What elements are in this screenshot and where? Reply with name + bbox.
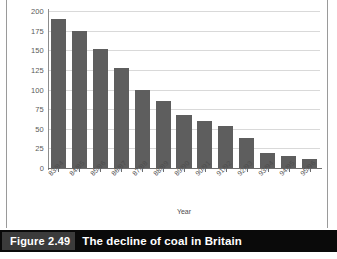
caption-bottom-edge (0, 252, 337, 254)
x-axis-title: Year (48, 208, 320, 215)
bar (156, 101, 171, 169)
y-tick-label: 150 (10, 46, 44, 55)
figure-number-badge: Figure 2.49 (2, 232, 75, 250)
bar (72, 31, 87, 168)
y-tick-label: 200 (10, 7, 44, 16)
figure-caption-bar: Figure 2.49 The decline of coal in Brita… (0, 230, 337, 252)
y-tick-label: 125 (10, 65, 44, 74)
bars-layer (48, 11, 320, 168)
y-tick-label: 100 (10, 85, 44, 94)
bar-chart: 0255075100125150175200 83/8484/8585/8686… (8, 2, 326, 228)
x-axis-labels: 83/8484/8585/8686/8787/8888/8989/9090/91… (48, 172, 337, 206)
figure-caption-text: The decline of coal in Britain (82, 235, 242, 247)
figure-page: 0255075100125150175200 83/8484/8585/8686… (0, 0, 337, 259)
bar (93, 49, 108, 168)
y-tick-label: 50 (10, 124, 44, 133)
bar (114, 68, 129, 168)
y-tick-label: 25 (10, 144, 44, 153)
y-tick-label: 75 (10, 105, 44, 114)
bar (135, 90, 150, 169)
figure-frame: 0255075100125150175200 83/8484/8585/8686… (0, 0, 337, 228)
bar (51, 19, 66, 168)
y-tick-label: 175 (10, 26, 44, 35)
y-axis-labels: 0255075100125150175200 (8, 2, 44, 228)
frame-border-left (6, 0, 7, 228)
y-tick-label: 0 (10, 164, 44, 173)
